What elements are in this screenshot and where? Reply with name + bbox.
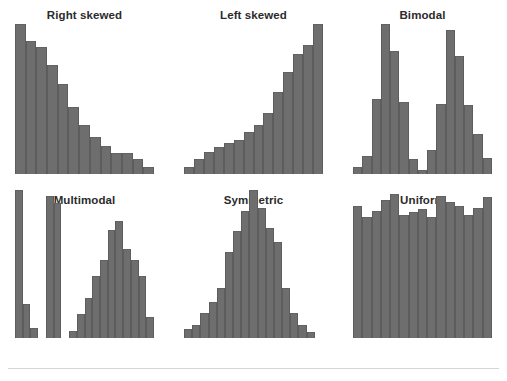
panel-title-left-skewed: Left skewed	[169, 0, 338, 22]
histogram-bar	[254, 125, 264, 175]
histogram-bar	[122, 153, 133, 174]
histogram-bar	[258, 208, 266, 338]
bars-right-skewed	[0, 24, 169, 174]
histogram-bar	[483, 197, 492, 338]
histogram-bar	[418, 170, 427, 175]
bars-uniform	[338, 190, 507, 338]
histogram-bar	[263, 113, 273, 175]
histogram-bar	[79, 125, 90, 175]
histogram-bar	[85, 298, 93, 338]
histogram-bar	[111, 153, 122, 174]
histogram-bar	[192, 325, 200, 338]
histogram-bar	[54, 203, 62, 338]
histogram-bar	[101, 146, 112, 175]
histogram-bar	[46, 196, 54, 338]
histogram-bar	[15, 190, 23, 338]
histogram-bar	[303, 45, 313, 174]
histogram-bar	[204, 152, 214, 175]
histogram-bar	[194, 159, 204, 174]
histogram-bar	[139, 276, 147, 338]
histogram-bar	[399, 215, 408, 338]
histogram-bar	[473, 134, 482, 175]
histogram-bar	[23, 304, 31, 338]
histogram-bar	[143, 167, 154, 175]
histogram-bar	[266, 228, 274, 338]
histogram-bar	[455, 56, 464, 175]
histogram-bar	[225, 252, 233, 338]
histogram-bar	[483, 158, 492, 175]
histogram-bar	[399, 102, 408, 174]
histogram-bar	[58, 84, 69, 174]
histogram-bar	[273, 92, 283, 175]
histogram-bar	[313, 24, 323, 174]
histogram-bar	[307, 332, 315, 338]
histogram-bar	[427, 217, 436, 338]
histogram-bar	[133, 159, 144, 174]
histogram-bar	[184, 167, 194, 175]
histogram-bar	[436, 104, 445, 175]
histogram-bar	[390, 194, 399, 338]
panel-multimodal: Multimodal	[0, 185, 169, 360]
histogram-bar	[455, 206, 464, 338]
panel-grid: Right skewed Left skewed Bimodal Multimo…	[0, 0, 507, 360]
histogram-bar	[241, 211, 249, 338]
histogram-bar	[77, 314, 85, 338]
histogram-bar	[362, 217, 371, 338]
bars-bimodal	[338, 24, 507, 174]
plot-area-multimodal	[0, 190, 169, 338]
footer-divider	[8, 368, 499, 369]
histogram-bar	[131, 260, 139, 338]
histogram-bar	[234, 140, 244, 175]
histogram-bar	[409, 159, 418, 174]
plot-area-right-skewed	[0, 24, 169, 174]
histogram-bar	[15, 24, 26, 174]
histogram-bar	[473, 208, 482, 338]
histogram-bar	[184, 329, 192, 338]
histogram-bar	[224, 143, 234, 175]
panel-title-right-skewed: Right skewed	[0, 0, 169, 22]
histogram-bar	[115, 221, 123, 338]
histogram-bar	[283, 72, 293, 174]
histogram-bar	[446, 30, 455, 174]
histogram-bar	[30, 328, 38, 338]
panel-uniform: Uniform	[338, 185, 507, 360]
histogram-shapes-figure: Right skewed Left skewed Bimodal Multimo…	[0, 0, 507, 381]
histogram-bar	[362, 156, 371, 174]
plot-area-bimodal	[338, 24, 507, 174]
bars-left-skewed	[169, 24, 338, 174]
histogram-bar	[146, 317, 154, 338]
histogram-bar	[293, 54, 303, 174]
histogram-bar	[372, 99, 381, 174]
panel-right-skewed: Right skewed	[0, 0, 169, 185]
histogram-bar	[36, 47, 47, 175]
histogram-bar	[69, 331, 77, 338]
plot-area-uniform	[338, 190, 507, 338]
histogram-bar	[100, 260, 108, 338]
bars-multimodal	[0, 190, 169, 338]
bars-symmetric	[169, 190, 338, 338]
panel-title-bimodal: Bimodal	[338, 0, 507, 22]
histogram-bar	[244, 132, 254, 174]
plot-area-left-skewed	[169, 24, 338, 174]
histogram-bar	[353, 206, 362, 338]
histogram-bar	[233, 231, 241, 338]
histogram-bar	[274, 242, 282, 338]
histogram-bar	[217, 288, 225, 338]
histogram-bar	[372, 211, 381, 338]
histogram-bar	[200, 313, 208, 338]
histogram-bar	[464, 215, 473, 338]
histogram-bar	[123, 249, 131, 338]
histogram-bar	[47, 65, 58, 175]
panel-bimodal: Bimodal	[338, 0, 507, 185]
histogram-bar	[436, 196, 445, 338]
panel-symmetric: Symmetric	[169, 185, 338, 360]
histogram-bar	[409, 212, 418, 338]
histogram-bar	[68, 107, 79, 175]
histogram-bar	[381, 200, 390, 338]
histogram-bar	[214, 147, 224, 174]
histogram-bar	[90, 137, 101, 175]
histogram-bar	[427, 150, 436, 174]
histogram-bar	[446, 202, 455, 338]
histogram-bar	[282, 288, 290, 338]
histogram-bar	[249, 190, 257, 338]
